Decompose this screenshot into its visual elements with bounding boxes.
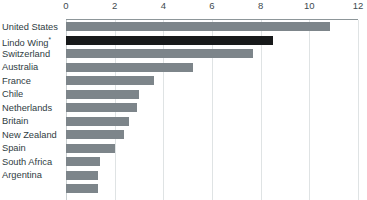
bar <box>66 130 124 139</box>
category-label: United States <box>0 22 62 32</box>
category-label: Netherlands <box>0 103 62 113</box>
footnote-marker: * <box>49 36 52 43</box>
x-tick-label: 12 <box>353 0 364 12</box>
category-label: Spain <box>0 143 62 153</box>
category-label: New Zealand <box>0 130 62 140</box>
category-label: Australia <box>0 62 62 72</box>
x-tick-label: 4 <box>161 0 166 12</box>
bar-row <box>66 171 358 180</box>
x-tick-label: 6 <box>209 0 214 12</box>
category-label: Argentina <box>0 170 62 180</box>
bar-row <box>66 63 358 72</box>
x-tick-label: 0 <box>63 0 68 12</box>
bar <box>66 22 330 31</box>
bar-row <box>66 22 358 31</box>
category-label: Britain <box>0 116 62 126</box>
bar <box>66 49 253 58</box>
bar <box>66 157 100 166</box>
category-label: Switzerland <box>0 49 62 59</box>
bar-row <box>66 117 358 126</box>
bar-chart: 024681012 United StatesLindo Wing*Switze… <box>0 0 367 200</box>
bar-row <box>66 103 358 112</box>
bar-row <box>66 130 358 139</box>
bar-row <box>66 76 358 85</box>
bar-row <box>66 184 358 193</box>
bar <box>66 103 137 112</box>
bar-row <box>66 157 358 166</box>
x-tick-label: 8 <box>258 0 263 12</box>
category-labels: United StatesLindo Wing*SwitzerlandAustr… <box>0 20 62 200</box>
bar-row <box>66 144 358 153</box>
bar <box>66 63 193 72</box>
bar <box>66 184 98 193</box>
bar <box>66 144 115 153</box>
bar <box>66 171 98 180</box>
category-label: Chile <box>0 89 62 99</box>
category-label: Lindo Wing* <box>0 35 62 48</box>
x-tick-label: 10 <box>304 0 315 12</box>
bar-row <box>66 49 358 58</box>
plot-area <box>66 20 358 200</box>
bar <box>66 117 129 126</box>
x-axis-tick-labels: 024681012 <box>66 0 358 18</box>
bar-row <box>66 36 358 45</box>
bar <box>66 76 154 85</box>
bar-row <box>66 90 358 99</box>
category-label: France <box>0 76 62 86</box>
x-tick-label: 2 <box>112 0 117 12</box>
bar-highlighted <box>66 36 273 45</box>
category-label: South Africa <box>0 157 62 167</box>
bar <box>66 90 139 99</box>
gridline <box>358 20 359 200</box>
